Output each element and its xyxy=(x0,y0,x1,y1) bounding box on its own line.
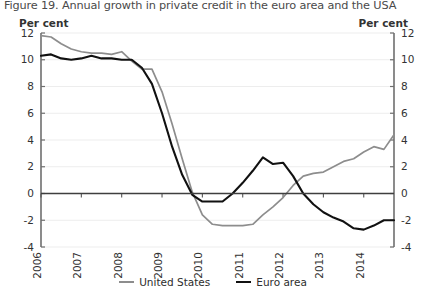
data-series-layer xyxy=(41,36,394,230)
svg-text:4: 4 xyxy=(401,134,408,146)
legend-label-euro-area: Euro area xyxy=(256,276,307,288)
svg-text:12: 12 xyxy=(401,27,414,39)
legend-label-united-states: United States xyxy=(139,276,210,288)
svg-text:-4: -4 xyxy=(24,241,35,253)
svg-text:-4: -4 xyxy=(401,241,412,253)
svg-text:2: 2 xyxy=(27,160,34,172)
figure-container: Figure 19. Annual growth in private cred… xyxy=(0,0,426,297)
line-chart-plot: -4-4-2-2002244668810101212 2006200720082… xyxy=(0,0,426,297)
svg-text:2010: 2010 xyxy=(192,252,204,279)
svg-text:4: 4 xyxy=(27,134,34,146)
svg-text:2: 2 xyxy=(401,160,408,172)
svg-text:2007: 2007 xyxy=(71,252,83,279)
svg-text:2012: 2012 xyxy=(273,252,285,279)
svg-text:2014: 2014 xyxy=(354,252,366,279)
svg-text:2009: 2009 xyxy=(152,252,164,279)
svg-text:2013: 2013 xyxy=(313,252,325,279)
svg-text:2006: 2006 xyxy=(31,252,43,279)
svg-text:12: 12 xyxy=(21,27,34,39)
legend-swatch-united-states xyxy=(119,281,134,283)
svg-text:0: 0 xyxy=(401,187,408,199)
svg-text:-2: -2 xyxy=(24,214,34,226)
legend-item-euro-area: Euro area xyxy=(236,276,307,288)
svg-text:8: 8 xyxy=(401,80,408,92)
svg-text:-2: -2 xyxy=(401,214,411,226)
chart-legend: United States Euro area xyxy=(0,276,426,288)
legend-swatch-euro-area xyxy=(236,281,251,283)
svg-text:2008: 2008 xyxy=(112,252,124,279)
svg-text:2011: 2011 xyxy=(233,252,245,279)
svg-text:0: 0 xyxy=(27,187,34,199)
svg-text:6: 6 xyxy=(27,107,34,119)
svg-text:8: 8 xyxy=(27,80,34,92)
svg-text:10: 10 xyxy=(401,53,414,65)
svg-text:6: 6 xyxy=(401,107,408,119)
legend-item-united-states: United States xyxy=(119,276,210,288)
svg-text:10: 10 xyxy=(21,53,34,65)
gridlines xyxy=(41,33,394,247)
